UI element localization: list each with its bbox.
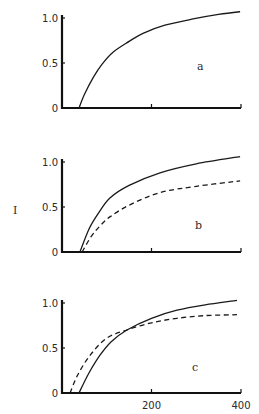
y-axis-title: I — [13, 204, 17, 217]
series-dashed-line — [82, 181, 240, 252]
series-solid-line — [79, 12, 240, 108]
series-solid-line — [80, 157, 240, 252]
axes — [62, 300, 241, 393]
y-tick-label: 0.5 — [42, 58, 58, 69]
panel-label: b — [195, 219, 202, 232]
y-tick-label: 0 — [52, 103, 58, 114]
panel-a: 00.51.0a — [42, 12, 241, 114]
panel-b: 00.51.0b — [42, 157, 241, 258]
y-tick-label: 1.0 — [42, 157, 58, 168]
x-tick-label: 400 — [231, 400, 250, 411]
axes — [62, 159, 241, 252]
y-tick-label: 0 — [52, 247, 58, 258]
axes — [62, 15, 241, 108]
y-tick-label: 1.0 — [42, 13, 58, 24]
panel-c: 00.51.0200400c — [42, 298, 250, 411]
panel-label: c — [192, 361, 198, 374]
y-tick-label: 0 — [52, 388, 58, 399]
series-dashed-line — [70, 315, 237, 393]
y-tick-label: 0.5 — [42, 343, 58, 354]
x-tick-label: 200 — [142, 400, 161, 411]
series-solid-line — [79, 300, 237, 393]
y-tick-label: 0.5 — [42, 202, 58, 213]
panel-label: a — [197, 60, 204, 73]
y-tick-label: 1.0 — [42, 298, 58, 309]
figure: 00.51.0a00.51.0b00.51.0200400c I — [0, 0, 259, 414]
